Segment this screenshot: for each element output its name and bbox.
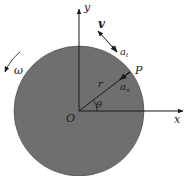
tangential-accel-label: at xyxy=(120,46,129,58)
point-label: P xyxy=(134,64,143,77)
y-axis-label: y xyxy=(83,1,91,14)
theta-label: θ xyxy=(96,99,102,110)
origin-label: O xyxy=(66,112,75,125)
tangential-accel-subscript: t xyxy=(126,51,129,58)
normal-accel-subscript: n xyxy=(126,86,130,93)
omega-label: ω xyxy=(14,64,23,77)
velocity-label: v xyxy=(98,17,106,31)
tangential-accel-arrow xyxy=(112,46,117,52)
x-axis-label: x xyxy=(174,113,181,126)
disk-diagram: y x O P r θ v at an ω xyxy=(0,0,185,176)
